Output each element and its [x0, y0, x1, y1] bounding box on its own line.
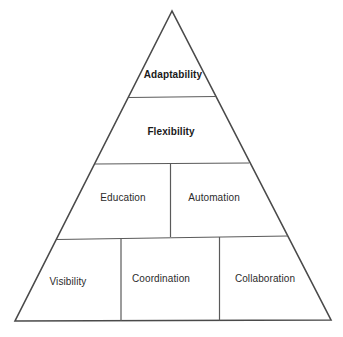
- pyramid-diagram: Adaptability Flexibility Education Autom…: [0, 0, 343, 337]
- tier-label-education: Education: [100, 192, 145, 203]
- tier-label-collaboration: Collaboration: [235, 273, 295, 284]
- tier-label-coordination: Coordination: [132, 273, 190, 284]
- tier-label-flexibility: Flexibility: [147, 126, 194, 137]
- tier-label-adaptability: Adaptability: [144, 69, 202, 80]
- tier-label-automation: Automation: [188, 192, 240, 203]
- tier-label-visibility: Visibility: [50, 276, 87, 287]
